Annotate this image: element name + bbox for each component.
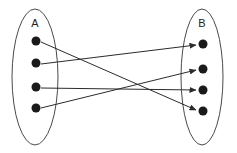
set-a-ellipse (12, 9, 58, 145)
mapping-arrow-a2-b1 (41, 45, 196, 64)
set-b-element-1 (199, 40, 208, 49)
set-a-element-4 (32, 104, 41, 113)
set-a-element-1 (32, 37, 41, 46)
set-a-label: A (31, 17, 39, 29)
set-mapping-diagram: A B (0, 0, 237, 153)
diagram-canvas: A B (0, 0, 237, 153)
set-b-element-4 (199, 107, 208, 116)
set-b-element-2 (199, 65, 208, 74)
set-b-element-3 (199, 86, 208, 95)
set-a-element-2 (32, 59, 41, 68)
set-b-label: B (198, 17, 205, 29)
set-b-ellipse (181, 9, 223, 145)
set-a-element-3 (32, 83, 41, 92)
